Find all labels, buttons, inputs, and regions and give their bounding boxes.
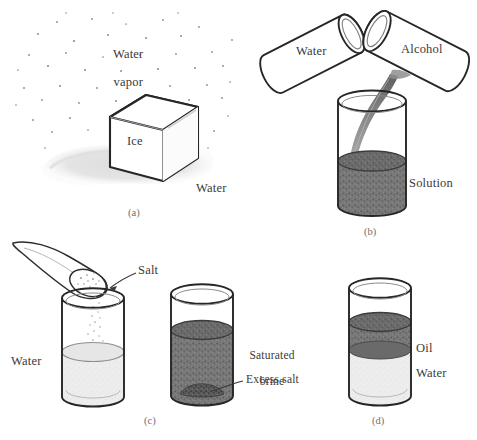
label-water-puddle: Water: [196, 181, 227, 195]
panel-tag-d: (d): [372, 415, 384, 426]
beaker-oil-water-icon: [349, 278, 411, 405]
label-oil: Oil: [416, 341, 433, 355]
label-water-vapor-line2: vapor: [114, 75, 143, 89]
label-excess-salt: Excess salt: [246, 373, 299, 386]
label-water-vapor: Water vapor: [94, 33, 156, 89]
beaker-water-icon: [62, 288, 124, 406]
panel-tag-a: (a): [128, 207, 140, 218]
salt-leader-arrow-icon: [110, 273, 136, 292]
panel-d: [349, 278, 411, 405]
label-water-layer: Water: [416, 366, 447, 380]
panel-tag-c: (c): [144, 415, 156, 426]
panel-tag-b: (b): [364, 226, 376, 237]
label-cylinder-water: Water: [296, 44, 327, 58]
label-salt: Salt: [138, 263, 158, 277]
panel-c: [13, 242, 243, 407]
label-water-vapor-line1: Water: [113, 47, 144, 61]
label-solution: Solution: [409, 176, 453, 190]
label-ice: Ice: [127, 134, 143, 148]
label-saturated-brine-line1: Saturated: [249, 349, 294, 361]
label-cylinder-alcohol: Alcohol: [401, 42, 443, 56]
label-water-beaker: Water: [11, 354, 42, 368]
